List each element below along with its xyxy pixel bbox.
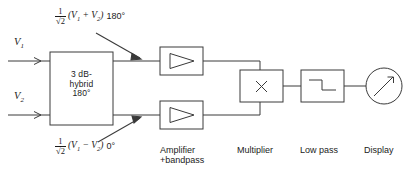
input-wire-v2 xyxy=(8,112,50,119)
caption-amplifier: Amplifier +bandpass xyxy=(160,145,204,165)
caption-lowpass-line1: Low pass xyxy=(300,145,338,155)
caption-multiplier: Multiplier xyxy=(237,145,273,155)
caption-lowpass: Low pass xyxy=(300,145,338,155)
phase-label-diff: 0° xyxy=(107,141,116,151)
amplifier-top-block xyxy=(160,47,203,75)
multiplier-block xyxy=(240,70,283,102)
phase-label-sum: 180° xyxy=(107,11,126,21)
annotation-diff-branch: 1 √2 (V1 − V2) 0° xyxy=(55,137,115,155)
input-label-v2: V2 xyxy=(14,90,24,105)
fraction-one-over-sqrt2-bottom: 1 √2 xyxy=(55,137,66,155)
caption-amplifier-line1: Amplifier xyxy=(160,145,204,155)
hybrid-label-line3: 180° xyxy=(50,89,113,99)
wire-amp-top-to-multiplier xyxy=(203,61,260,70)
fraction-denominator: √2 xyxy=(55,147,66,156)
fraction-numerator: 1 xyxy=(56,7,64,16)
annotation-sum-branch: 1 √2 (V1 + V2) 180° xyxy=(55,7,125,25)
fraction-numerator: 1 xyxy=(56,137,64,146)
caption-display-line1: Display xyxy=(364,145,394,155)
block-diagram: V1 V2 3 dB- hybrid 180° 1 √2 (V1 + V2) 1… xyxy=(0,0,410,180)
caption-multiplier-line1: Multiplier xyxy=(237,145,273,155)
fraction-one-over-sqrt2-top: 1 √2 xyxy=(55,7,66,25)
caption-display: Display xyxy=(364,145,394,155)
amplifier-bottom-block xyxy=(160,101,203,129)
caption-amplifier-line2: +bandpass xyxy=(160,155,204,165)
wire-amp-bottom-to-multiplier xyxy=(203,102,260,115)
input-wire-v1 xyxy=(8,58,50,65)
hybrid-block-label: 3 dB- hybrid 180° xyxy=(50,70,113,99)
fraction-denominator: √2 xyxy=(55,17,66,26)
expression-difference: (V1 − V2) xyxy=(68,140,104,152)
input-label-v1: V1 xyxy=(14,36,24,51)
lowpass-block xyxy=(301,70,344,102)
display-block xyxy=(366,68,402,104)
expression-sum: (V1 + V2) xyxy=(68,10,104,22)
